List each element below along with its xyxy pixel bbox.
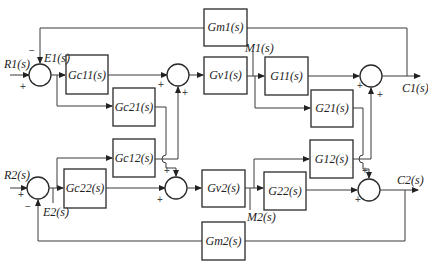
sign-sum1-fb: − <box>29 45 35 56</box>
sign-c2-left: + <box>355 194 361 205</box>
label-g21: G21(s) <box>315 101 348 115</box>
sign-sum3-bottom: + <box>182 87 188 98</box>
signal-c1: C1(s) <box>402 81 428 95</box>
signal-e1: E1(s) <box>43 51 70 65</box>
sign-sum3-left: + <box>158 79 164 90</box>
label-gm2: Gm2(s) <box>206 234 242 248</box>
label-g11: G11(s) <box>270 69 302 83</box>
block-diagram: Gm1(s) Gc11(s) Gc21(s) Gv1(s) G11(s) G21… <box>0 0 428 261</box>
summing-junction-1 <box>29 64 51 86</box>
summing-junction-4 <box>165 177 187 199</box>
sign-sum1-r1: + <box>20 81 26 92</box>
signal-m2: M2(s) <box>246 210 276 224</box>
sign-sum4-top: + <box>164 165 170 176</box>
sign-c1-bottom: + <box>377 89 383 100</box>
sign-c2-top: + <box>362 165 368 176</box>
g12-cross-line <box>353 88 371 159</box>
label-gc12: Gc12(s) <box>115 151 154 165</box>
sign-sum2-r2: + <box>18 189 24 200</box>
signal-c2: C2(s) <box>397 173 424 187</box>
signal-e2: E2(s) <box>42 205 69 219</box>
signal-r2: R2(s) <box>3 168 30 182</box>
label-gc11: Gc11(s) <box>68 68 106 82</box>
label-g12: G12(s) <box>315 152 348 166</box>
signal-m1: M1(s) <box>244 41 274 55</box>
summing-junction-3 <box>167 64 189 86</box>
sign-sum2-fb: − <box>25 201 31 212</box>
summing-junction-2 <box>27 177 49 199</box>
label-g22: G22(s) <box>268 184 301 198</box>
summing-junction-c1 <box>360 65 382 87</box>
label-gv2: Gv2(s) <box>207 181 240 195</box>
label-gc22: Gc22(s) <box>66 181 105 195</box>
sign-c1-left: + <box>357 80 363 91</box>
signal-r1: R1(s) <box>3 57 30 71</box>
label-gm1: Gm1(s) <box>208 20 244 34</box>
label-gc21: Gc21(s) <box>115 100 154 114</box>
summing-junction-c2 <box>358 179 380 201</box>
label-gv1: Gv1(s) <box>209 68 242 82</box>
sign-sum4-left: + <box>157 194 163 205</box>
